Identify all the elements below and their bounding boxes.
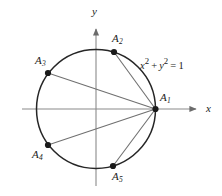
chord-a1-a4 bbox=[48, 109, 156, 145]
figure-canvas bbox=[0, 0, 222, 196]
point-label-a5: A5 bbox=[112, 171, 122, 182]
equation-plus: + bbox=[151, 60, 157, 71]
chord-a1-a5 bbox=[113, 109, 156, 166]
x-axis-label: x bbox=[206, 103, 211, 114]
point-a1 bbox=[152, 106, 158, 112]
point-a2 bbox=[111, 49, 117, 55]
point-label-a4: A4 bbox=[32, 149, 42, 160]
equation-equals: = bbox=[170, 60, 176, 71]
equation-rhs: 1 bbox=[178, 60, 183, 71]
point-label-a4-text: A bbox=[32, 148, 39, 160]
x-axis-label-text: x bbox=[206, 102, 211, 114]
unit-circle-figure: x y A1 A2 A3 A4 A5 x2 + y2 = 1 bbox=[0, 0, 222, 196]
y-axis-label: y bbox=[92, 6, 97, 17]
chord-a1-a3 bbox=[48, 73, 156, 109]
point-label-a4-sub: 4 bbox=[39, 153, 43, 162]
point-label-a1: A1 bbox=[160, 92, 170, 103]
point-label-a3-text: A bbox=[35, 54, 42, 66]
point-label-a1-text: A bbox=[160, 91, 167, 103]
point-label-a5-sub: 5 bbox=[119, 175, 123, 184]
point-label-a1-sub: 1 bbox=[167, 96, 171, 105]
circle-equation-annotation: x2 + y2 = 1 bbox=[140, 57, 184, 71]
point-a5 bbox=[110, 163, 116, 169]
point-label-a3: A3 bbox=[35, 55, 45, 66]
point-label-a2: A2 bbox=[112, 33, 122, 44]
point-label-a3-sub: 3 bbox=[42, 59, 46, 68]
point-label-a2-text: A bbox=[112, 32, 119, 44]
point-a4 bbox=[45, 142, 51, 148]
point-label-a5-text: A bbox=[112, 170, 119, 182]
equation-sup-y: 2 bbox=[164, 56, 168, 66]
y-axis-label-text: y bbox=[92, 5, 97, 17]
point-a3 bbox=[45, 70, 51, 76]
point-label-a2-sub: 2 bbox=[119, 37, 123, 46]
